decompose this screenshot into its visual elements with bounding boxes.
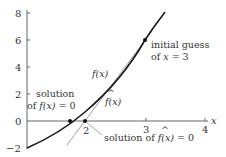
newton-method-diagram: 8 6 4 2 0 −2 2 3 4 x f(x) f(x) ^ initial… <box>0 0 226 157</box>
label-initial-guess: initial guess of x = 3 <box>151 39 209 62</box>
x-axis-label: x <box>211 115 217 126</box>
svg-text:solution: solution <box>36 88 74 99</box>
x-tick-2: 2 <box>83 125 89 136</box>
label-fhat: f(x) ^ <box>104 87 122 107</box>
y-tick-6: 6 <box>15 35 21 46</box>
point-initial-guess <box>143 38 147 42</box>
label-f: f(x) <box>91 68 109 79</box>
svg-text:of x = 3: of x = 3 <box>151 51 189 62</box>
y-tick-2: 2 <box>15 89 21 100</box>
svg-text:of f(x) = 0: of f(x) = 0 <box>27 100 76 111</box>
y-tick-8: 8 <box>15 8 21 19</box>
svg-text:initial guess: initial guess <box>151 39 209 50</box>
y-tick-neg2: −2 <box>6 143 21 154</box>
svg-text:^: ^ <box>161 124 169 135</box>
svg-text:solution of f(x) = 0: solution of f(x) = 0 <box>104 132 194 143</box>
y-ticks <box>27 13 30 94</box>
label-solution-f: solution of f(x) = 0 <box>27 88 76 111</box>
svg-text:^: ^ <box>107 87 115 98</box>
point-solution-f <box>68 119 72 123</box>
x-tick-4: 4 <box>202 124 208 135</box>
y-tick-4: 4 <box>15 62 21 73</box>
y-tick-0: 0 <box>15 116 21 127</box>
